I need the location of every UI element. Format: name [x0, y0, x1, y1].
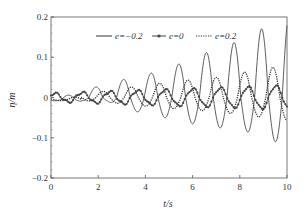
series-e-zero-marker — [59, 96, 61, 98]
series-e-zero-marker — [190, 89, 192, 91]
series-e-zero-marker — [97, 103, 99, 105]
series-e-zero-marker — [265, 102, 267, 104]
x-axis: 0246810 — [49, 175, 292, 192]
series-e-zero-marker — [280, 92, 282, 94]
series-e-zero-marker — [242, 92, 244, 94]
series-e-zero-marker — [214, 93, 216, 95]
series-e-zero-marker — [196, 92, 198, 94]
series-e-zero-marker — [231, 104, 233, 106]
series-e-zero-marker — [85, 92, 87, 94]
series-e-zero-marker — [212, 96, 214, 98]
plot-curves — [50, 25, 288, 141]
y-tick-label: 0 — [44, 93, 49, 103]
series-e-zero-marker — [236, 106, 238, 108]
series-e-zero-marker — [129, 97, 131, 99]
series-e-zero-marker — [284, 103, 286, 105]
series-e-zero-marker — [143, 96, 145, 98]
series-e-zero-marker — [127, 100, 129, 102]
series-e-zero-marker — [182, 102, 184, 104]
series-e-zero-marker — [198, 96, 200, 98]
series-e-zero-marker — [240, 95, 242, 97]
series-e-zero-marker — [270, 90, 272, 92]
series-e-zero-marker — [195, 88, 197, 90]
x-tick-label: 4 — [143, 182, 148, 192]
y-tick-label: 0.1 — [37, 52, 48, 62]
series-e-zero-marker — [239, 99, 241, 101]
series-e-zero-marker — [269, 93, 271, 95]
series-e-zero-marker — [154, 103, 156, 105]
series-e-zero-marker — [229, 102, 231, 104]
series-e-zero-marker — [88, 97, 90, 99]
x-tick-label: 0 — [49, 182, 54, 192]
series-e-zero-marker — [70, 101, 72, 103]
series-e-zero-marker — [141, 93, 143, 95]
series-e-zero-marker — [100, 98, 102, 100]
series-e-zero-marker — [155, 99, 157, 101]
legend-label-e-zero: e=0 — [169, 31, 184, 41]
x-tick-label: 10 — [283, 182, 293, 192]
series-e-zero-marker — [267, 97, 269, 99]
x-tick-label: 8 — [238, 182, 243, 192]
series-e-zero-marker — [166, 88, 168, 90]
series-e-zero-marker — [226, 97, 228, 99]
series-e-zero-marker — [72, 99, 74, 101]
series-e-zero-marker — [215, 91, 217, 93]
series-e-zero-marker — [210, 101, 212, 103]
series-e-zero-marker — [140, 90, 142, 92]
series-e-zero-marker — [169, 94, 171, 96]
legend-label-e-neg: e=−0.2 — [115, 31, 143, 41]
series-e-zero-marker — [185, 94, 187, 96]
legend-label-e-pos: e=0.2 — [215, 31, 237, 41]
series-e-zero-marker — [258, 104, 260, 106]
series-e-zero-marker — [207, 106, 209, 108]
y-axis-label: η/m — [6, 93, 17, 108]
series-e-zero-marker — [162, 91, 164, 93]
series-e-zero-marker — [253, 95, 255, 97]
series-e-zero-marker — [102, 95, 104, 97]
x-tick-label: 6 — [190, 182, 195, 192]
y-tick-label: −0.1 — [32, 133, 48, 143]
series-e-zero-marker — [188, 91, 190, 93]
line-chart: 0.20.10−0.1−0.2 0246810 η/m t/s e=−0.2 e… — [0, 0, 306, 215]
series-e-zero-marker — [245, 88, 247, 90]
series-e-zero-marker — [225, 93, 227, 95]
series-e-zero-marker — [243, 90, 245, 92]
series-e-zero-marker — [168, 90, 170, 92]
series-e-zero-marker — [111, 90, 113, 92]
series-e-zero-marker — [86, 94, 88, 96]
x-axis-label: t/s — [163, 198, 173, 209]
series-e-neg-line — [51, 25, 287, 141]
series-e-zero-marker — [217, 90, 219, 92]
series-e-zero-marker — [283, 101, 285, 103]
legend: e=−0.2 e=0 e=0.2 — [96, 31, 237, 41]
series-e-zero-marker — [152, 104, 154, 106]
y-tick-label: −0.2 — [32, 173, 48, 183]
series-e-zero-marker — [281, 97, 283, 99]
series-e-zero-marker — [223, 89, 225, 91]
series-e-zero-marker — [157, 96, 159, 98]
series-e-zero-marker — [199, 99, 201, 101]
series-e-zero-marker — [254, 99, 256, 101]
series-e-zero-marker — [237, 103, 239, 105]
series-e-zero-line — [51, 85, 287, 109]
y-tick-label: 0.2 — [37, 12, 48, 22]
series-e-zero-marker — [180, 105, 182, 107]
series-e-zero-marker — [228, 100, 230, 102]
series-e-zero-marker — [272, 88, 274, 90]
series-e-zero-marker — [184, 98, 186, 100]
legend-circle-marker-icon — [157, 34, 160, 37]
x-tick-label: 2 — [96, 182, 101, 192]
chart-container: 0.20.10−0.1−0.2 0246810 η/m t/s e=−0.2 e… — [0, 0, 306, 215]
series-e-zero-marker — [125, 103, 127, 105]
series-e-zero-marker — [171, 98, 173, 100]
series-e-zero-marker — [99, 101, 101, 103]
series-e-zero-marker — [209, 104, 211, 106]
series-e-zero-marker — [113, 92, 115, 94]
series-e-zero-marker — [221, 86, 223, 88]
series-e-zero-marker — [56, 92, 58, 94]
series-e-zero-marker — [114, 95, 116, 97]
series-e-zero-marker — [58, 93, 60, 95]
plot-frame — [51, 17, 287, 178]
series-e-zero-marker — [259, 106, 261, 108]
series-e-zero-marker — [273, 86, 275, 88]
